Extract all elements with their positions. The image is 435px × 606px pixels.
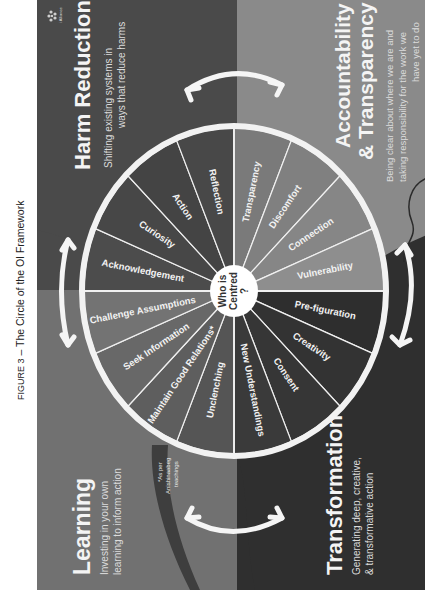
oi-framework-figure: FIGURE 3 – The Circle of the OI Framewor… [0, 0, 435, 606]
learning-subtitle-1: Investing in your own [99, 481, 110, 575]
accountability-subtitle-1: Being clear about where we are and [384, 30, 395, 182]
figure-caption: FIGURE 3 – The Circle of the OI Framewor… [14, 200, 26, 400]
figure-title: The Circle of the OI Framework [14, 200, 26, 347]
transformation-subtitle-2: & transformative action [364, 473, 375, 575]
framework-wheel: AcknowledgementCuriosityActionReflection… [82, 126, 386, 456]
footnote-line-2: Anishinaabeg [165, 458, 171, 494]
footnote-line-3: teachings [173, 461, 179, 487]
transformation-subtitle-1: Generating deep, creative, [351, 457, 362, 575]
accountability-subtitle-3: have yet to do [410, 22, 421, 82]
logo-text: i Alliance [58, 6, 63, 23]
figure-label: FIGURE 3 [16, 358, 26, 400]
center-question-line: Who is [217, 274, 228, 307]
learning-title: Learning [69, 478, 95, 575]
harm-reduction-subtitle-2: ways that reduce harms [116, 22, 127, 129]
center-question-line: ? [239, 288, 250, 294]
transformation-title: Transformation [322, 415, 347, 575]
accountability-subtitle-2: taking responsibility for the work we [397, 32, 408, 182]
accountability-title-1: Accountability [331, 3, 354, 148]
harm-reduction-subtitle-1: Shifting existing systems in [103, 48, 114, 168]
footnote-line-1: *As per [157, 462, 163, 482]
accountability-title-2: & Transparency [354, 2, 377, 160]
center-question-line: Centred [228, 272, 239, 310]
harm-reduction-title: Harm Reduction [70, 0, 95, 170]
learning-subtitle-2: learning to inform action [112, 468, 123, 575]
